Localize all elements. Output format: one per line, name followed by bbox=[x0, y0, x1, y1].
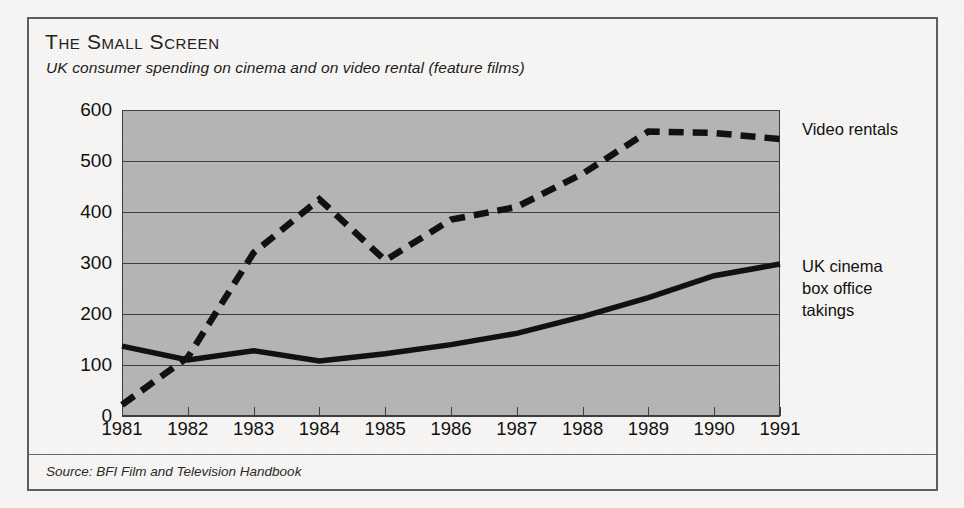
x-axis-tick-label: 1991 bbox=[759, 418, 800, 440]
y-axis-tick-label: 200 bbox=[80, 303, 112, 325]
x-axis-tick-label: 1984 bbox=[299, 418, 340, 440]
x-axis-tick-label: 1986 bbox=[430, 418, 471, 440]
y-axis-tick-label: 300 bbox=[80, 252, 112, 274]
x-axis-tick-label: 1982 bbox=[167, 418, 208, 440]
x-axis-labels: 1981198219831984198519861987198819891990… bbox=[122, 418, 780, 448]
x-axis-tick-label: 1990 bbox=[694, 418, 735, 440]
x-axis-tick-label: 1981 bbox=[101, 418, 142, 440]
x-axis-tick-label: 1985 bbox=[365, 418, 406, 440]
series-lines bbox=[122, 110, 780, 416]
legend-label-video: Video rentals bbox=[802, 119, 898, 141]
chart-figure: The Small Screen UK consumer spending on… bbox=[27, 17, 938, 491]
chart-subtitle: UK consumer spending on cinema and on vi… bbox=[46, 59, 525, 77]
y-axis-tick-label: 100 bbox=[80, 354, 112, 376]
x-axis-tick-label: 1989 bbox=[628, 418, 669, 440]
y-axis-tick-label: 400 bbox=[80, 201, 112, 223]
page-title: The Small Screen bbox=[45, 30, 220, 54]
y-axis-tick-label: 500 bbox=[80, 150, 112, 172]
series-line-cinema bbox=[122, 264, 780, 361]
legend-label-cinema: UK cinema box office takings bbox=[802, 256, 883, 322]
source-note: Source: BFI Film and Television Handbook bbox=[46, 464, 301, 479]
plot-area: £m 0100200300400500600 19811982198319841… bbox=[122, 110, 780, 416]
x-axis-tick bbox=[780, 407, 781, 416]
x-axis-tick-label: 1983 bbox=[233, 418, 274, 440]
series-line-video bbox=[122, 131, 780, 404]
x-axis-tick-label: 1988 bbox=[562, 418, 603, 440]
source-divider bbox=[29, 454, 936, 455]
y-axis-tick-label: 600 bbox=[80, 99, 112, 121]
x-axis-tick-label: 1987 bbox=[496, 418, 537, 440]
gridline bbox=[122, 416, 780, 417]
y-axis-labels: 0100200300400500600 bbox=[0, 110, 112, 416]
